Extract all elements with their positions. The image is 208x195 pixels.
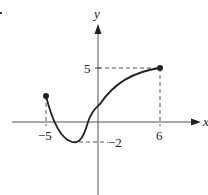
tick-label-5: 5 — [84, 61, 91, 76]
tick-label-neg2: −2 — [108, 135, 122, 150]
function-curve — [46, 68, 160, 142]
y-axis-label: y — [92, 6, 100, 21]
left-endpoint-dot — [43, 93, 49, 99]
y-axis-arrow-icon — [95, 24, 102, 34]
function-graph: x y −5 6 5 −2 — [0, 0, 208, 195]
x-axis-arrow-icon — [191, 119, 201, 126]
tick-label-6: 6 — [156, 128, 163, 143]
x-axis-label: x — [202, 114, 208, 129]
tick-label-neg5: −5 — [38, 128, 52, 143]
right-endpoint-dot — [157, 65, 163, 71]
problem-marker — [0, 12, 2, 14]
